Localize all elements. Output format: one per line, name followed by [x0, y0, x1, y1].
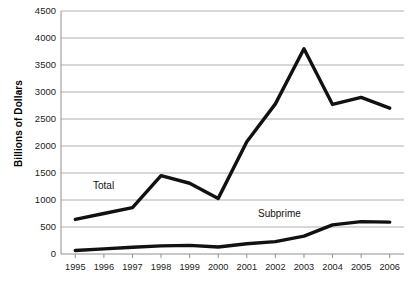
- y-tick-label: 2000: [22, 141, 56, 151]
- line-chart: Billions of Dollars 4500 4000 3500 3000 …: [0, 0, 412, 283]
- y-tick-label: 4000: [22, 33, 56, 43]
- y-tick-label: 4500: [22, 6, 56, 16]
- x-tick-label: 2006: [372, 262, 408, 272]
- y-tick-label: 0: [22, 249, 56, 259]
- y-tick-label: 3000: [22, 87, 56, 97]
- y-tick-label: 500: [22, 222, 56, 232]
- series-line-total: [75, 49, 389, 220]
- x-axis-ticks: [75, 254, 389, 258]
- series-annotation-total: Total: [93, 180, 114, 191]
- plot-area: [0, 0, 412, 283]
- y-tick-label: 2500: [22, 114, 56, 124]
- y-axis-tick-labels: 4500 4000 3500 3000 2500 2000 1500 1000 …: [22, 0, 56, 283]
- y-tick-label: 1500: [22, 168, 56, 178]
- gridlines: [61, 11, 404, 254]
- y-tick-label: 1000: [22, 195, 56, 205]
- series-line-subprime: [75, 222, 389, 251]
- series-annotation-subprime: Subprime: [258, 208, 301, 219]
- y-tick-label: 3500: [22, 60, 56, 70]
